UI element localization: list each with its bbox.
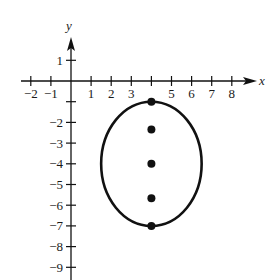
x-tick-label: −2	[24, 86, 38, 101]
x-tick-label: 6	[188, 86, 195, 101]
x-tick-label: 2	[108, 86, 115, 101]
y-tick-label: −6	[49, 198, 63, 213]
ellipse-graph: −2−112356781−2−3−4−5−6−7−8−9 x y	[0, 0, 275, 280]
x-tick-label: 1	[88, 86, 95, 101]
x-tick-label: 8	[229, 86, 236, 101]
y-tick-label: −8	[49, 239, 63, 254]
x-tick-label: −1	[44, 86, 58, 101]
focus-point	[147, 194, 155, 202]
y-tick-label: −7	[49, 218, 63, 233]
vertex-point	[147, 98, 155, 106]
x-tick-label: 7	[208, 86, 215, 101]
y-tick-label: −5	[49, 177, 63, 192]
center-point	[147, 160, 155, 168]
focus-point	[147, 125, 155, 133]
y-axis-label: y	[64, 18, 72, 33]
vertex-point	[147, 222, 155, 230]
x-tick-label: 5	[168, 86, 175, 101]
y-tick-label: 1	[57, 53, 64, 68]
y-tick-label: −4	[49, 156, 63, 171]
tick-labels: −2−112356781−2−3−4−5−6−7−8−9	[24, 53, 235, 275]
y-tick-label: −2	[49, 115, 63, 130]
y-tick-label: −9	[49, 260, 63, 275]
x-axis-label: x	[258, 73, 265, 88]
y-tick-label: −3	[49, 136, 63, 151]
x-tick-label: 3	[128, 86, 135, 101]
key-points	[147, 98, 155, 230]
